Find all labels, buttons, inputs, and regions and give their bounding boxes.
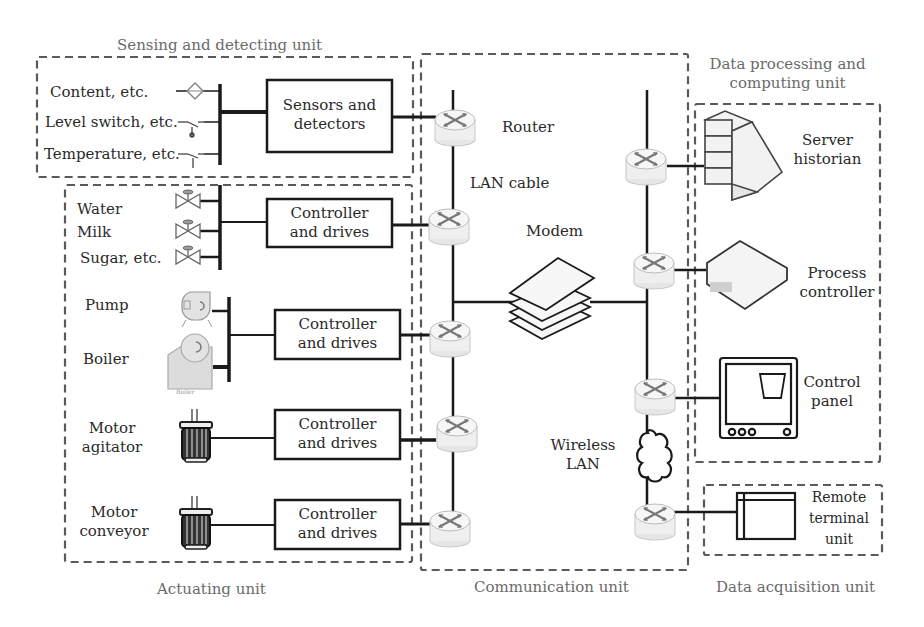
sensing-unit-title: Sensing and detecting unit [117,36,322,55]
sensing-label-content: Content, etc. [50,83,148,102]
router-icon-1 [435,110,475,146]
router-icon-7 [634,253,674,289]
actuator-label-sugar: Sugar, etc. [80,249,162,268]
actuator-label-pump: Pump [85,296,129,315]
modem-icon [510,258,594,339]
router-icon-5 [430,511,470,547]
valve-water-icon [176,190,200,208]
router-icon-9 [635,504,675,540]
pump-icon [182,292,212,327]
sensing-label-temperature: Temperature, etc. [44,145,180,164]
router-icon-3 [430,321,470,357]
actuator-label-motor-conveyor: Motor conveyor [78,503,150,541]
process-controller-label: Process controller [797,264,877,302]
modem-label: Modem [526,222,583,241]
lan-cable-label: LAN cable [470,174,549,193]
controller-label-1: Controller and drives [267,204,392,242]
rtu-label: Remote terminal unit [801,487,877,550]
router-icon-6 [626,149,666,185]
actuator-label-motor-agitator: Motor agitator [78,419,146,457]
router-icon-8 [635,379,675,415]
valve-milk-icon [176,220,200,238]
valve-sugar-icon [176,246,200,264]
sensing-label-level-switch: Level switch, etc. [45,113,178,132]
controller-label-2: Controller and drives [275,315,400,353]
boiler-icon [168,334,212,389]
motor-conveyor-icon [180,496,212,549]
router-label: Router [502,118,554,137]
control-panel-label: Control panel [800,373,864,411]
data-processing-unit-title: Data processing and computing unit [705,55,870,93]
actuator-label-water: Water [77,200,122,219]
data-acquisition-unit-title: Data acquisition unit [716,578,875,597]
actuating-unit-title: Actuating unit [157,580,266,599]
controller-label-4: Controller and drives [275,505,400,543]
sensors-detectors-label: Sensors and detectors [267,96,392,134]
server-historian-icon [705,111,782,200]
remote-terminal-unit-icon [737,493,795,539]
communication-unit-title: Communication unit [474,578,629,597]
diamond-sensor-icon [187,83,203,99]
controller-label-3: Controller and drives [275,415,400,453]
router-icon-4 [437,416,477,452]
actuator-label-milk: Milk [77,223,111,242]
network-diagram: Sensing and detecting unit Actuating uni… [0,0,924,627]
process-controller-icon [707,241,787,309]
router-icon-2 [429,209,469,245]
boiler-caption: Boiler [176,388,194,395]
server-historian-label: Server historian [790,131,865,169]
motor-agitator-icon [180,409,212,462]
wireless-cloud-icon [637,430,672,481]
control-panel-icon [720,358,797,438]
wireless-lan-label: Wireless LAN [548,436,618,474]
level-switch-icon [178,122,204,137]
temperature-probe-icon [178,154,204,168]
actuator-label-boiler: Boiler [83,350,129,369]
